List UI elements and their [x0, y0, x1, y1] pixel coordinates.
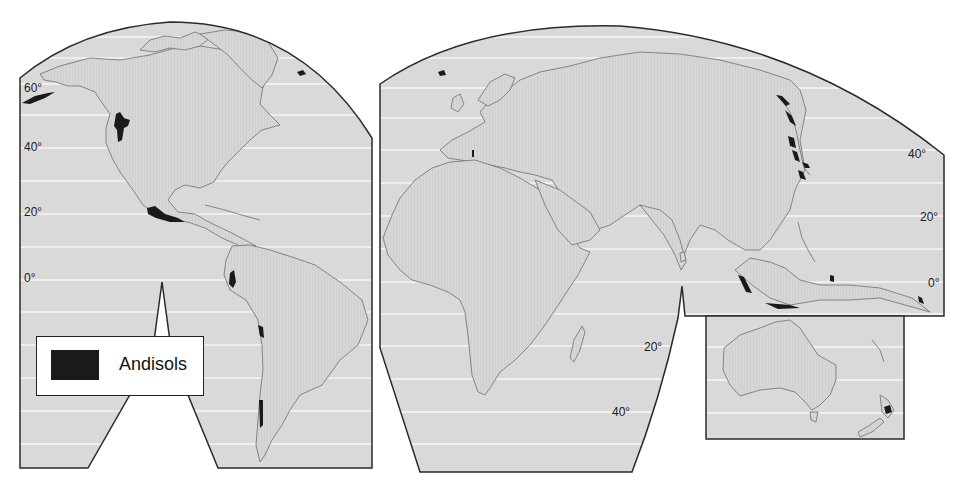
lat-label-20-indian-ocean: 20° — [644, 340, 662, 354]
map-legend: Andisols — [36, 336, 204, 396]
lat-label-20-east: 20° — [920, 210, 938, 224]
lat-label-20-americas: 20° — [24, 205, 42, 219]
lat-label-0-east: 0° — [928, 276, 940, 290]
andisols-swatch — [51, 350, 99, 380]
andisols-italy — [472, 150, 474, 157]
americas-panel — [0, 22, 380, 468]
oceania-panel — [706, 316, 904, 439]
lat-label-40-east: 40° — [908, 147, 926, 161]
lat-label-40-indian-ocean: 40° — [612, 405, 630, 419]
andisols-philippines — [830, 275, 834, 282]
legend-label-andisols: Andisols — [119, 354, 187, 375]
lat-label-40-americas: 40° — [24, 140, 42, 154]
lat-label-0-americas: 0° — [24, 271, 36, 285]
world-map: 60° 40° 20° 0° 40° 20° 0° 20° 40° — [0, 0, 965, 484]
lat-label-60-americas: 60° — [24, 81, 42, 95]
